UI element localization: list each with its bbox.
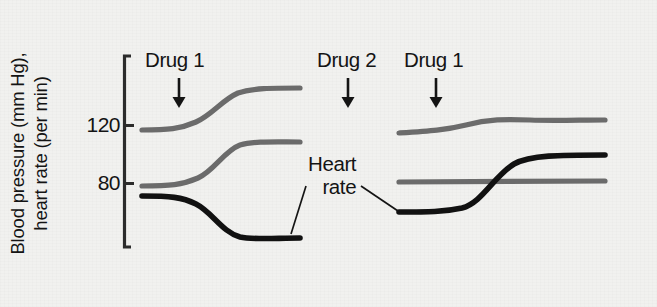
figure-canvas: Blood pressure (mm Hg), heart rate (per …	[0, 0, 657, 307]
trace-right-diastolic-bp	[399, 181, 605, 182]
heart-rate-leader-line-left	[291, 186, 306, 234]
drug-marker-arrow-3	[430, 78, 443, 108]
trace-left-systolic-bp	[142, 88, 300, 130]
heart-rate-leader-line-right	[361, 186, 398, 211]
left-panel-traces	[142, 88, 300, 239]
trace-right-systolic-bp	[399, 120, 605, 133]
trace-left-heart-rate	[142, 196, 300, 239]
drug-marker-arrow-2	[342, 78, 355, 108]
plot-vector-layer	[0, 0, 657, 307]
trace-left-diastolic-bp	[142, 142, 300, 186]
heart-rate-leader-lines	[291, 186, 398, 234]
y-axis-bracket	[125, 56, 135, 247]
right-panel-traces	[399, 120, 605, 212]
drug-marker-arrow-1	[173, 78, 186, 108]
